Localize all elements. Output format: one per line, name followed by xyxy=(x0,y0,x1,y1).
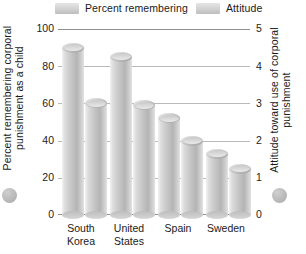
bar-united-states-attitude xyxy=(133,105,155,215)
bar-base-ellipse xyxy=(229,211,251,219)
left-tick-label: 20 xyxy=(42,172,54,183)
left-tick-label: 40 xyxy=(42,135,54,146)
right-tick-label: 4 xyxy=(256,61,262,72)
left-tick-label: 80 xyxy=(42,61,54,72)
bar-united-states-percent xyxy=(110,57,132,215)
category-axis-labels: South Korea United States Spain Sweden xyxy=(58,222,250,254)
legend-label: Percent remembering xyxy=(85,2,188,14)
left-axis-title: Percent remembering corporal punishment … xyxy=(1,18,25,178)
legend-swatch-icon xyxy=(55,3,79,14)
bar-top-ellipse xyxy=(133,100,155,110)
bar-sweden-percent xyxy=(206,154,228,215)
bar-base-ellipse xyxy=(62,211,84,219)
bar-top-ellipse xyxy=(110,52,132,62)
bar-base-ellipse xyxy=(206,211,228,219)
bar-south-korea-percent xyxy=(62,48,84,215)
bar-top-ellipse xyxy=(62,43,84,53)
bar-top-ellipse xyxy=(158,113,180,123)
bar-base-ellipse xyxy=(110,211,132,219)
category-label: United States xyxy=(101,222,157,248)
right-tick-label: 2 xyxy=(256,135,262,146)
right-tick-label: 0 xyxy=(256,209,262,220)
left-series-marker-circle-icon xyxy=(2,188,17,203)
bar-base-ellipse xyxy=(181,211,203,219)
bar-spain-attitude xyxy=(181,141,203,215)
left-axis-ticks: 100 80 60 40 20 0 xyxy=(26,0,54,254)
right-series-marker-circle-icon xyxy=(272,188,287,203)
bar-top-ellipse xyxy=(229,164,251,174)
left-tick-label: 0 xyxy=(48,209,54,220)
chart-container: Percent remembering Attitude 100 80 60 4… xyxy=(0,0,306,254)
gridline-100 xyxy=(58,29,250,30)
left-tick-label: 60 xyxy=(42,98,54,109)
bar-base-ellipse xyxy=(133,211,155,219)
category-label: Sweden xyxy=(198,222,254,235)
bar-base-ellipse xyxy=(85,211,107,219)
bar-sweden-attitude xyxy=(229,169,251,216)
bar-base-ellipse xyxy=(158,211,180,219)
left-tick-label: 100 xyxy=(36,23,54,34)
legend-item-attitude: Attitude xyxy=(196,1,262,15)
bar-spain-percent xyxy=(158,118,180,215)
right-axis-title: Attitude toward use of corporal punishme… xyxy=(268,20,292,180)
bar-south-korea-attitude xyxy=(85,103,107,215)
legend-swatch-icon xyxy=(196,3,220,14)
gridline-80 xyxy=(58,66,250,67)
bar-top-ellipse xyxy=(85,98,107,108)
legend-item-percent-remembering: Percent remembering xyxy=(55,1,188,15)
right-tick-label: 1 xyxy=(256,172,262,183)
plot-area xyxy=(58,29,250,215)
right-tick-label: 3 xyxy=(256,98,262,109)
right-tick-label: 5 xyxy=(256,23,262,34)
bar-top-ellipse xyxy=(206,149,228,159)
bar-top-ellipse xyxy=(181,136,203,146)
